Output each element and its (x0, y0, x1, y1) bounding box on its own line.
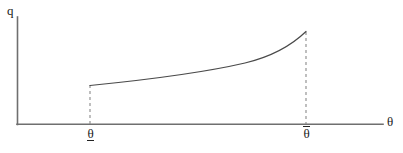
theta-overbar-glyph: θ (303, 126, 309, 140)
theta-underbar-glyph: θ (87, 127, 93, 141)
x-axis-label: θ (387, 115, 393, 128)
figure-canvas: q θ θ θ (0, 0, 403, 153)
y-axis-label: q (7, 4, 14, 17)
quantity-schedule-curve (90, 32, 306, 86)
x-tick-theta-lower: θ (84, 127, 97, 141)
plot-svg (0, 0, 403, 153)
x-tick-theta-upper: θ (300, 126, 313, 140)
